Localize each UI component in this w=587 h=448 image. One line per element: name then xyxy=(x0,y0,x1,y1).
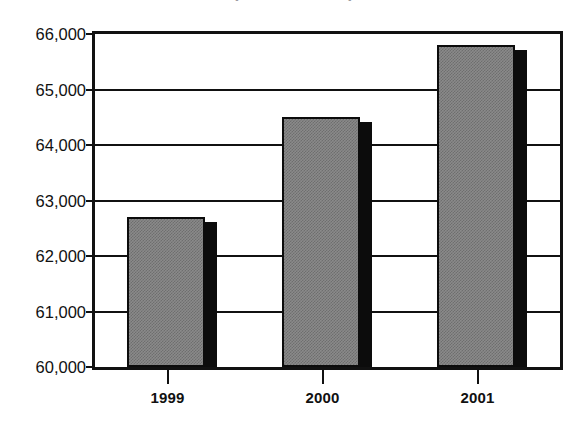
y-axis-tick-mark xyxy=(86,366,92,368)
x-axis-tick-label-2001: 2001 xyxy=(460,389,494,406)
y-axis-tick-label: 63,000 xyxy=(4,192,86,209)
bar-2000 xyxy=(282,117,360,367)
bar-2001 xyxy=(437,45,515,367)
chart-title: (in thousands) xyxy=(0,0,587,3)
y-axis-tick-mark xyxy=(86,200,92,202)
bar-group-1999 xyxy=(127,217,219,367)
y-axis-tick-label: 61,000 xyxy=(4,303,86,320)
y-axis-tick-mark xyxy=(86,33,92,35)
y-axis-tick-label: 65,000 xyxy=(4,81,86,98)
y-axis-tick-label: 60,000 xyxy=(4,359,86,376)
y-axis-tick-mark xyxy=(86,311,92,313)
bar-group-2000 xyxy=(282,117,374,367)
y-axis-tick-label: 66,000 xyxy=(4,26,86,43)
x-axis-tick-mark xyxy=(322,370,324,384)
bar-1999 xyxy=(127,217,205,367)
y-axis-tick-label: 62,000 xyxy=(4,248,86,265)
x-axis-tick-label-2000: 2000 xyxy=(305,389,339,406)
chart-title-clipped-region: (in thousands) xyxy=(0,0,587,14)
x-axis-tick-mark xyxy=(167,370,169,384)
bar-side-shadow-2001 xyxy=(513,50,527,367)
x-axis-tick-mark xyxy=(477,370,479,384)
bar-group-2001 xyxy=(437,45,529,367)
y-axis-tick-mark xyxy=(86,255,92,257)
y-axis-labels: 66,00065,00064,00063,00062,00061,00060,0… xyxy=(0,0,86,448)
plot-area xyxy=(92,31,563,370)
bar-side-shadow-1999 xyxy=(203,222,217,367)
bar-chart-figure: (in thousands) 66,00065,00064,00063,0006… xyxy=(0,0,587,448)
y-axis-tick-mark xyxy=(86,89,92,91)
y-axis-tick-label: 64,000 xyxy=(4,137,86,154)
x-axis-tick-label-1999: 1999 xyxy=(150,389,184,406)
plot-inner xyxy=(95,34,560,367)
bar-side-shadow-2000 xyxy=(358,122,372,367)
y-axis-tick-mark xyxy=(86,144,92,146)
